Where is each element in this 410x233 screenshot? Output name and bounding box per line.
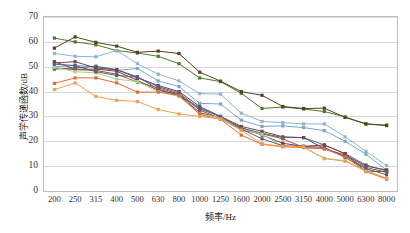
x-tick-label: 2000 bbox=[253, 194, 270, 204]
data-point-marker bbox=[53, 82, 56, 85]
data-point-marker bbox=[323, 122, 326, 125]
data-point-marker bbox=[74, 35, 77, 38]
data-point-marker bbox=[115, 81, 118, 84]
y-tick-label: 40 bbox=[10, 86, 38, 96]
data-point-marker bbox=[260, 94, 263, 97]
data-point-marker bbox=[323, 110, 326, 113]
data-point-marker bbox=[74, 55, 77, 58]
data-point-marker bbox=[198, 71, 201, 74]
data-point-marker bbox=[219, 117, 222, 120]
data-point-marker bbox=[240, 90, 243, 93]
data-point-marker bbox=[364, 170, 367, 173]
data-point-marker bbox=[157, 55, 160, 58]
data-point-marker bbox=[53, 52, 56, 55]
x-tick-label: 1000 bbox=[191, 194, 208, 204]
y-tick-label: 30 bbox=[10, 110, 38, 120]
series-2 bbox=[53, 35, 388, 127]
data-point-marker bbox=[198, 102, 201, 105]
data-point-marker bbox=[74, 76, 77, 79]
data-point-marker bbox=[94, 41, 97, 44]
series-line bbox=[54, 67, 386, 178]
data-point-marker bbox=[260, 133, 263, 136]
x-tick-label: 630 bbox=[152, 194, 165, 204]
data-point-marker bbox=[177, 79, 180, 82]
data-point-marker bbox=[115, 99, 118, 102]
x-axis-title: 频率/Hz bbox=[43, 210, 398, 223]
data-point-marker bbox=[136, 80, 139, 83]
data-point-marker bbox=[219, 102, 222, 105]
data-point-marker bbox=[198, 115, 201, 118]
data-point-marker bbox=[323, 147, 326, 150]
data-point-marker bbox=[281, 145, 284, 148]
data-point-marker bbox=[53, 37, 56, 40]
series-line bbox=[54, 83, 386, 178]
data-point-marker bbox=[198, 107, 201, 110]
series-11 bbox=[53, 76, 388, 180]
y-tick-label: 10 bbox=[10, 160, 38, 170]
data-point-marker bbox=[364, 153, 367, 156]
x-tick-label: 2500 bbox=[274, 194, 291, 204]
data-point-marker bbox=[385, 177, 388, 180]
data-point-marker bbox=[74, 70, 77, 73]
data-point-marker bbox=[281, 137, 284, 140]
data-point-marker bbox=[177, 112, 180, 115]
data-point-marker bbox=[302, 122, 305, 125]
data-point-marker bbox=[323, 129, 326, 132]
data-point-marker bbox=[94, 55, 97, 58]
plot-area bbox=[43, 16, 398, 192]
data-point-marker bbox=[302, 145, 305, 148]
data-point-marker bbox=[157, 73, 160, 76]
data-point-marker bbox=[260, 142, 263, 145]
data-point-marker bbox=[302, 136, 305, 139]
data-point-marker bbox=[136, 91, 139, 94]
data-point-marker bbox=[177, 62, 180, 65]
data-point-marker bbox=[198, 76, 201, 79]
data-point-marker bbox=[385, 164, 388, 167]
data-point-marker bbox=[177, 85, 180, 88]
data-point-marker bbox=[219, 93, 222, 96]
data-point-marker bbox=[157, 85, 160, 88]
data-point-marker bbox=[302, 126, 305, 129]
data-point-marker bbox=[344, 116, 347, 119]
data-point-marker bbox=[74, 81, 77, 84]
x-tick-label: 250 bbox=[69, 194, 82, 204]
data-point-marker bbox=[260, 107, 263, 110]
x-tick-label: 8000 bbox=[378, 194, 395, 204]
x-tick-label: 500 bbox=[131, 194, 144, 204]
data-point-marker bbox=[157, 108, 160, 111]
data-point-marker bbox=[219, 80, 222, 83]
y-tick-label: 60 bbox=[10, 36, 38, 46]
data-point-marker bbox=[94, 95, 97, 98]
y-tick-label: 0 bbox=[10, 185, 38, 195]
data-point-marker bbox=[53, 66, 56, 69]
data-point-marker bbox=[157, 50, 160, 53]
x-axis-tick-labels: 2002503154005006308001000125016002000250… bbox=[43, 194, 398, 208]
series-12 bbox=[53, 81, 388, 179]
data-point-marker bbox=[74, 40, 77, 43]
y-tick-label: 70 bbox=[10, 11, 38, 21]
x-tick-label: 5000 bbox=[336, 194, 353, 204]
data-point-marker bbox=[136, 51, 139, 54]
data-point-marker bbox=[260, 120, 263, 123]
x-tick-label: 3150 bbox=[295, 194, 312, 204]
data-point-marker bbox=[364, 150, 367, 153]
data-point-marker bbox=[198, 92, 201, 95]
data-point-marker bbox=[344, 155, 347, 158]
data-point-marker bbox=[344, 135, 347, 138]
data-point-marker bbox=[136, 76, 139, 79]
series-layer bbox=[44, 17, 397, 191]
x-tick-label: 800 bbox=[173, 194, 186, 204]
data-point-marker bbox=[323, 107, 326, 110]
y-tick-label: 50 bbox=[10, 61, 38, 71]
data-point-marker bbox=[240, 119, 243, 122]
data-point-marker bbox=[115, 49, 118, 52]
x-tick-label: 1600 bbox=[233, 194, 250, 204]
data-point-marker bbox=[136, 62, 139, 65]
x-tick-label: 4000 bbox=[316, 194, 333, 204]
data-point-marker bbox=[364, 122, 367, 125]
data-point-marker bbox=[115, 74, 118, 77]
x-tick-label: 6300 bbox=[357, 194, 374, 204]
x-tick-label: 315 bbox=[89, 194, 102, 204]
data-point-marker bbox=[53, 47, 56, 50]
data-point-marker bbox=[115, 70, 118, 73]
